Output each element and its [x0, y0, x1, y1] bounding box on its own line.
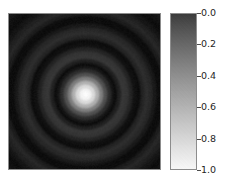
colorbar-tick-label: 0.6 — [201, 102, 216, 112]
diffraction-pattern-heatmap[interactable] — [9, 14, 160, 169]
colorbar-tick-label: 0.0 — [201, 8, 216, 18]
heatmap-axes[interactable] — [8, 13, 161, 170]
colorbar-tick-label: 0.2 — [201, 39, 216, 49]
colorbar[interactable] — [170, 13, 197, 170]
colorbar-tick-label: 1.0 — [201, 165, 216, 175]
colorbar-tick-label: 0.8 — [201, 134, 216, 144]
colorbar-gradient — [171, 14, 196, 169]
colorbar-tick-label: 0.4 — [201, 71, 216, 81]
figure-canvas: 0.00.20.40.60.81.0 — [0, 0, 231, 183]
